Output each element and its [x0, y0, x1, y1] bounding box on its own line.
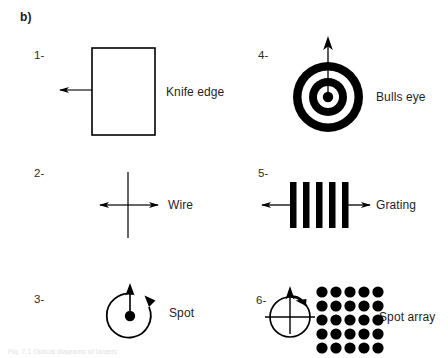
wire-icon: [100, 172, 158, 238]
caption-spot: Spot: [169, 306, 194, 320]
caption-spot-array: Spot array: [379, 310, 435, 324]
spot-array-grid: [316, 286, 383, 353]
item-number-5: 5-: [258, 167, 269, 179]
knife-edge-icon: [60, 48, 155, 135]
caption-knife-edge: Knife edge: [166, 85, 224, 99]
item-number-4: 4-: [258, 49, 269, 61]
bulls-eye-icon: [293, 36, 363, 132]
spot-icon: [107, 283, 156, 338]
caption-bulls-eye: Bulls eye: [376, 90, 426, 104]
spot-array-icon: [265, 286, 384, 354]
item-number-2: 2-: [34, 167, 45, 179]
item-number-6: 6-: [256, 294, 267, 306]
caption-wire: Wire: [168, 198, 193, 212]
item-number-3: 3-: [34, 293, 45, 305]
panel-label: b): [20, 10, 32, 24]
cut-off-caption: Fig. 7.1 Optical diagrams of targets: [8, 348, 178, 355]
grating-icon: [262, 182, 370, 228]
diagram-artwork: [0, 0, 448, 358]
item-number-1: 1-: [34, 49, 45, 61]
caption-grating: Grating: [376, 198, 416, 212]
figure-panel-b: b) 1- 2- 3- 4- 5- 6- Knife edge Wire Spo…: [0, 0, 448, 358]
